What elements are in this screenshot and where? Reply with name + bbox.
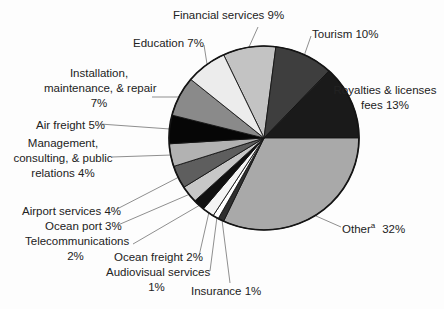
label-text: Ocean freight 2% xyxy=(114,250,203,265)
label-text: relations 4% xyxy=(8,166,118,181)
label-text: Management, xyxy=(8,136,118,151)
leader-line-management-consulting-public-relations xyxy=(112,155,172,157)
label-text: Education 7% xyxy=(131,36,206,51)
label-air-freight: Air freight 5% xyxy=(36,118,105,133)
label-text: 7% xyxy=(44,96,154,111)
leader-line-other xyxy=(316,216,341,227)
label-text: Insurance 1% xyxy=(191,284,261,299)
label-other: Othera32% xyxy=(342,222,405,237)
label-text: Telecommunications xyxy=(25,234,126,249)
label-text: Ocean port 3% xyxy=(45,219,122,234)
leader-line-ocean-port xyxy=(118,194,190,225)
label-text: Tourism 10% xyxy=(312,27,378,42)
label-text: Airport services 4% xyxy=(22,204,121,219)
label-text: Air freight 5% xyxy=(36,118,105,133)
label-text: consulting, & public xyxy=(8,151,118,166)
label-installation-maintenance-repair: Installation, maintenance, & repair 7% xyxy=(44,66,154,111)
footnote-marker: a xyxy=(371,221,375,230)
leader-line-air-freight xyxy=(100,124,170,129)
leader-line-insurance xyxy=(222,220,230,283)
label-financial-services: Financial services 9% xyxy=(166,8,291,23)
label-ocean-freight: Ocean freight 2% xyxy=(114,250,203,265)
label-insurance: Insurance 1% xyxy=(191,284,261,299)
label-text: Royalties & licenses xyxy=(333,83,437,98)
label-telecommunications: Telecommunications 2% xyxy=(25,234,126,264)
label-text: Financial services 9% xyxy=(166,8,291,23)
label-text: Other xyxy=(342,223,371,235)
leader-line-audiovisual-services xyxy=(210,217,217,271)
leader-line-telecommunications xyxy=(133,205,200,244)
label-management-consulting-public-relations: Management, consulting, & public relatio… xyxy=(8,136,118,181)
label-education: Education 7% xyxy=(131,36,206,51)
label-text: 2% xyxy=(25,249,126,264)
leader-line-tourism xyxy=(304,36,311,56)
label-royalties-licenses-fees: Royalties & licenses fees 13% xyxy=(333,83,437,113)
label-text: Audiovisual services xyxy=(106,265,207,280)
label-text: fees 13% xyxy=(333,98,437,113)
leader-line-financial-services xyxy=(249,27,258,47)
label-pct: 32% xyxy=(382,223,405,235)
label-ocean-port: Ocean port 3% xyxy=(45,219,122,234)
label-text: Installation, xyxy=(44,66,154,81)
pie-chart-figure: Financial services 9% Tourism 10% Educat… xyxy=(0,0,444,309)
leader-line-airport-services xyxy=(117,177,179,209)
label-text: maintenance, & repair xyxy=(44,81,154,96)
label-airport-services: Airport services 4% xyxy=(22,204,121,219)
label-tourism: Tourism 10% xyxy=(312,27,378,42)
